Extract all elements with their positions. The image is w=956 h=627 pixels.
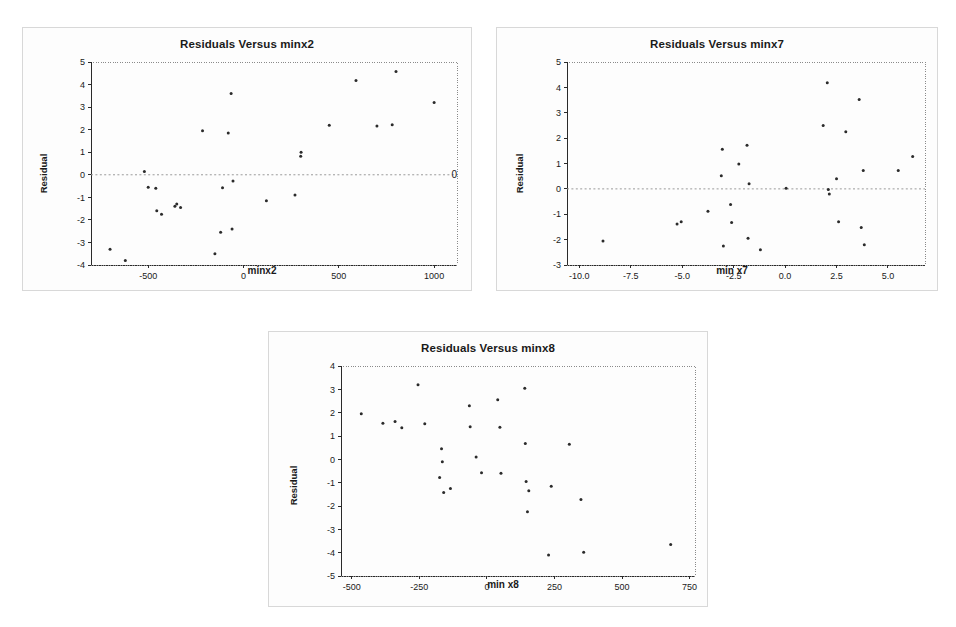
scatter-plot-minx7: -3-2-1012345-10.0-7.5-5.0-2.50.02.55.0 (541, 56, 933, 291)
chart-title-minx2: Residuals Versus minx2 (23, 38, 471, 50)
y-axis-label-minx8: Residual (288, 456, 299, 516)
svg-text:1: 1 (556, 159, 561, 169)
svg-text:1: 1 (330, 431, 335, 441)
x-axis-label-minx2: minx2 (63, 265, 461, 276)
svg-text:3: 3 (556, 108, 561, 118)
svg-text:0: 0 (80, 170, 85, 180)
svg-text:3: 3 (330, 385, 335, 395)
y-axis-label-minx2: Residual (38, 144, 49, 204)
svg-text:5: 5 (80, 57, 85, 67)
svg-text:0: 0 (330, 455, 335, 465)
svg-text:2: 2 (330, 408, 335, 418)
svg-text:1: 1 (80, 147, 85, 157)
chart-title-minx7: Residuals Versus minx7 (497, 38, 937, 50)
svg-text:-2: -2 (77, 215, 85, 225)
svg-text:-2: -2 (327, 501, 335, 511)
svg-text:2: 2 (556, 133, 561, 143)
scatter-plot-minx2: -4-3-2-1012345-50005001000 (65, 56, 465, 291)
svg-text:-4: -4 (327, 548, 335, 558)
svg-text:4: 4 (80, 80, 85, 90)
svg-text:-1: -1 (553, 209, 561, 219)
svg-text:4: 4 (330, 361, 335, 371)
chart-panel-minx7: Residuals Versus minx7 Residual -3-2-101… (496, 27, 938, 291)
svg-text:-2: -2 (553, 235, 561, 245)
svg-text:-3: -3 (77, 238, 85, 248)
svg-text:-1: -1 (327, 478, 335, 488)
svg-text:5: 5 (556, 57, 561, 67)
y-axis-label-minx7: Residual (514, 144, 525, 204)
chart-title-minx8: Residuals Versus minx8 (269, 342, 707, 354)
svg-text:0: 0 (556, 184, 561, 194)
svg-text:4: 4 (556, 83, 561, 93)
scatter-plot-minx8: -5-4-3-2-101234-500-2500250500750 (315, 360, 703, 602)
x-axis-label-minx8: min x8 (309, 579, 697, 590)
svg-text:3: 3 (80, 102, 85, 112)
svg-text:-3: -3 (327, 525, 335, 535)
chart-panel-minx2: Residuals Versus minx2 Residual -4-3-2-1… (22, 27, 472, 291)
right-zero-annotation-minx2: 0 (451, 169, 457, 180)
chart-panel-minx8: Residuals Versus minx8 Residual -5-4-3-2… (268, 331, 708, 607)
x-axis-label-minx7: min x7 (537, 265, 927, 276)
svg-text:2: 2 (80, 125, 85, 135)
svg-text:-1: -1 (77, 193, 85, 203)
